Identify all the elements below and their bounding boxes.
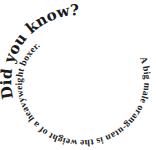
headline-text: Did you know?	[0, 1, 80, 101]
fact-textpath: A big male orang-utan is the weight of a…	[14, 40, 152, 148]
headline-textpath: Did you know?	[0, 1, 80, 101]
fact-text: A big male orang-utan is the weight of a…	[14, 40, 152, 148]
spiral-text-graphic: Did you know? A big male orang-utan is t…	[0, 0, 156, 150]
